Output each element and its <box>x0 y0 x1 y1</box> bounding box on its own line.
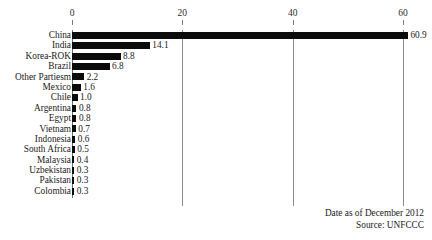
bar-row: Chile1.0 <box>0 92 432 102</box>
category-label: Uzbekistan <box>0 165 71 175</box>
bar-row: India14.1 <box>0 40 432 50</box>
bar-value-label: 6.8 <box>110 61 124 71</box>
x-tick-mark <box>403 20 404 25</box>
category-label: Malaysia <box>0 155 71 165</box>
footer-note: Date as of December 2012 Source: UNFCCC <box>325 208 424 231</box>
category-label: Other Partiesm <box>0 72 71 82</box>
category-label: Pakistan <box>0 175 71 185</box>
category-label: Chile <box>0 92 71 102</box>
category-label: South Africa <box>0 144 71 154</box>
bar <box>72 84 81 91</box>
bar <box>72 63 110 70</box>
bar-value-label: 0.8 <box>76 103 90 113</box>
bar-row: Pakistan0.3 <box>0 175 432 185</box>
bar <box>72 73 84 80</box>
x-tick-mark <box>293 20 294 25</box>
bar-row: Indonesia0.6 <box>0 134 432 144</box>
bar <box>72 42 150 49</box>
category-label: Indonesia <box>0 134 71 144</box>
bar <box>72 32 408 39</box>
category-label: India <box>0 40 71 50</box>
bar-row: Brazil6.8 <box>0 61 432 71</box>
x-tick-label: 0 <box>70 8 75 19</box>
category-label: China <box>0 30 71 40</box>
x-tick-label: 20 <box>178 8 188 19</box>
bar-value-label: 8.8 <box>121 51 135 61</box>
bar-row: Egypt0.8 <box>0 113 432 123</box>
bar-value-label: 0.6 <box>75 134 89 144</box>
bar-value-label: 2.2 <box>84 72 98 82</box>
bar-value-label: 0.8 <box>76 113 90 123</box>
bar-row: Other Partiesm2.2 <box>0 72 432 82</box>
bar-row: South Africa0.5 <box>0 144 432 154</box>
category-label: Colombia <box>0 186 71 196</box>
bar-rows: China60.9India14.1Korea-ROK8.8Brazil6.8O… <box>0 30 432 196</box>
bar-value-label: 14.1 <box>150 40 169 50</box>
category-label: Vietnam <box>0 124 71 134</box>
bar-value-label: 60.9 <box>408 30 427 40</box>
bar-row: Korea-ROK8.8 <box>0 51 432 61</box>
bar-chart: 0204060 China60.9India14.1Korea-ROK8.8Br… <box>0 0 432 240</box>
bar-row: Argentina0.8 <box>0 103 432 113</box>
footer-date: Date as of December 2012 <box>325 208 424 220</box>
category-label: Brazil <box>0 61 71 71</box>
bar-value-label: 0.4 <box>74 155 88 165</box>
bar-value-label: 0.3 <box>74 165 88 175</box>
bar-value-label: 0.5 <box>75 144 89 154</box>
bar-value-label: 0.7 <box>76 124 90 134</box>
bar-row: Uzbekistan0.3 <box>0 165 432 175</box>
category-label: Korea-ROK <box>0 51 71 61</box>
x-tick-label: 60 <box>398 8 408 19</box>
x-tick-mark <box>72 20 73 25</box>
category-label: Mexico <box>0 82 71 92</box>
bar <box>72 53 121 60</box>
bar-value-label: 1.6 <box>81 82 95 92</box>
category-label: Egypt <box>0 113 71 123</box>
bar-row: China60.9 <box>0 30 432 40</box>
footer-source: Source: UNFCCC <box>325 220 424 232</box>
bar-value-label: 1.0 <box>78 92 92 102</box>
x-tick-label: 40 <box>288 8 298 19</box>
bar-value-label: 0.3 <box>74 175 88 185</box>
bar-value-label: 0.3 <box>74 186 88 196</box>
bar-row: Vietnam0.7 <box>0 124 432 134</box>
bar-row: Colombia0.3 <box>0 186 432 196</box>
bar-row: Malaysia0.4 <box>0 155 432 165</box>
bar-row: Mexico1.6 <box>0 82 432 92</box>
category-label: Argentina <box>0 103 71 113</box>
x-tick-mark <box>182 20 183 25</box>
